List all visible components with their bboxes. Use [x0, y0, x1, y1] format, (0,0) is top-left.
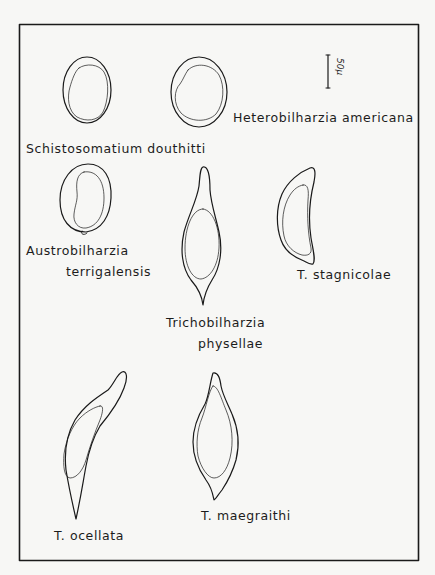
egg-trichobilharzia-physellae [182, 167, 221, 305]
schistosome-egg-figure: 50μ Schistosomatium douthitti Heterobilh… [0, 0, 435, 575]
label-trichobilharzia: Trichobilharzia [166, 315, 265, 330]
label-heterobilharzia-americana: Heterobilharzia americana [233, 110, 414, 125]
label-physellae: physellae [198, 336, 263, 351]
label-t-ocellata: T. ocellata [54, 528, 124, 543]
label-schistosomatium-douthitti: Schistosomatium douthitti [26, 141, 206, 156]
label-t-maegraithi: T. maegraithi [201, 508, 291, 523]
label-austrobilharzia: Austrobilharzia [26, 243, 129, 258]
egg-heterobilharzia-americana [171, 57, 227, 127]
egg-t-stagnicolae [277, 168, 315, 265]
figure-border [20, 25, 419, 561]
egg-t-maegraithi [193, 373, 238, 500]
figure-drawing [0, 0, 435, 575]
label-terrigalensis: terrigalensis [66, 264, 151, 279]
label-t-stagnicolae: T. stagnicolae [297, 267, 391, 282]
egg-austrobilharzia-terrigalensis [60, 164, 111, 234]
scale-bar [326, 55, 330, 88]
scale-bar-label: 50μ [335, 58, 345, 75]
egg-schistosomatium-douthitti [63, 57, 111, 123]
egg-t-ocellata [64, 372, 127, 519]
